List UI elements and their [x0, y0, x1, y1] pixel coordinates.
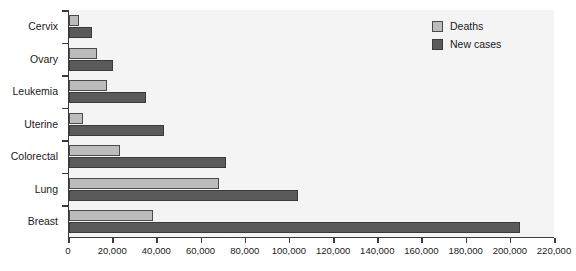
bar-colorectal-deaths [69, 145, 120, 156]
x-axis-tick [466, 238, 468, 243]
x-axis-tick-label: 200,000 [493, 245, 527, 256]
x-axis-tick-label: 180,000 [448, 245, 482, 256]
x-axis-tick [289, 238, 291, 243]
x-axis-tick [245, 238, 247, 243]
bar-ovary-new-cases [69, 60, 113, 71]
bar-breast-new-cases [69, 222, 520, 233]
bar-uterine-deaths [69, 113, 83, 124]
y-axis-label-cervix: Cervix [28, 10, 58, 43]
bar-group [69, 108, 554, 141]
bar-leukemia-new-cases [69, 92, 146, 103]
y-axis-label-leukemia: Leukemia [12, 75, 58, 108]
bar-group [69, 75, 554, 108]
x-axis-tick-label: 220,000 [537, 245, 571, 256]
legend: DeathsNew cases [432, 20, 544, 56]
legend-item-deaths: Deaths [432, 20, 544, 32]
x-axis-tick-label: 80,000 [230, 245, 259, 256]
y-axis-tick [62, 75, 68, 77]
x-axis-tick-label: 20,000 [98, 245, 127, 256]
y-axis-label-lung: Lung [35, 173, 58, 206]
x-axis-tick [68, 238, 70, 243]
bar-lung-deaths [69, 178, 219, 189]
x-axis-tick [510, 238, 512, 243]
y-axis-label-colorectal: Colorectal [11, 140, 58, 173]
y-axis-tick [62, 173, 68, 175]
y-axis-tick [62, 108, 68, 110]
y-axis-tick [62, 10, 68, 12]
legend-label: Deaths [450, 20, 483, 32]
x-axis-tick-label: 0 [65, 245, 70, 256]
bar-uterine-new-cases [69, 125, 164, 136]
x-axis-tick [421, 238, 423, 243]
x-axis-tick-label: 100,000 [272, 245, 306, 256]
y-axis-label-ovary: Ovary [30, 43, 58, 76]
y-axis-tick [62, 43, 68, 45]
bar-lung-new-cases [69, 190, 298, 201]
y-axis-label-uterine: Uterine [24, 108, 58, 141]
x-axis-tick [554, 238, 556, 243]
x-axis-tick [201, 238, 203, 243]
y-axis-tick [62, 140, 68, 142]
x-axis-tick-label: 120,000 [316, 245, 350, 256]
bar-leukemia-deaths [69, 80, 107, 91]
y-axis-label-breast: Breast [28, 205, 58, 238]
bar-cervix-new-cases [69, 27, 92, 38]
legend-swatch-icon [432, 21, 443, 32]
bar-chart: CervixOvaryLeukemiaUterineColorectalLung… [0, 0, 576, 271]
bar-group [69, 140, 554, 173]
bar-group [69, 205, 554, 238]
y-axis-tick [62, 205, 68, 207]
bar-breast-deaths [69, 210, 153, 221]
y-axis-labels: CervixOvaryLeukemiaUterineColorectalLung… [0, 10, 64, 238]
x-axis-tick [112, 238, 114, 243]
bar-cervix-deaths [69, 15, 79, 26]
x-axis-tick-label: 140,000 [360, 245, 394, 256]
x-axis-tick [156, 238, 158, 243]
x-axis-tick-label: 160,000 [404, 245, 438, 256]
x-axis-tick-label: 40,000 [142, 245, 171, 256]
legend-swatch-icon [432, 39, 443, 50]
x-axis-tick [377, 238, 379, 243]
legend-label: New cases [450, 38, 501, 50]
x-axis-tick-label: 60,000 [186, 245, 215, 256]
bar-group [69, 173, 554, 206]
bar-ovary-deaths [69, 48, 97, 59]
x-axis-tick [333, 238, 335, 243]
bar-colorectal-new-cases [69, 157, 226, 168]
legend-item-new-cases: New cases [432, 38, 544, 50]
x-axis: 020,00040,00060,00080,000100,000120,0001… [68, 238, 554, 271]
